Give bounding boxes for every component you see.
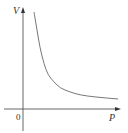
y-axis-label: V xyxy=(13,6,19,16)
x-axis-label: P xyxy=(109,113,115,123)
origin-label: 0 xyxy=(16,113,21,122)
hyperbola-curve xyxy=(34,12,118,99)
y-axis-arrow-icon xyxy=(21,7,25,13)
x-axis-arrow-icon xyxy=(115,107,121,111)
